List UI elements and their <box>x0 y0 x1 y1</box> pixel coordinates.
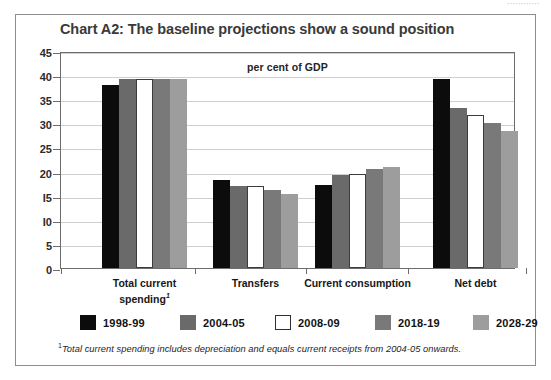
x-axis-category-label-line: spending1 <box>113 290 176 305</box>
bar <box>467 115 484 268</box>
y-axis-tick-label: 45 <box>40 47 52 59</box>
legend-swatch <box>275 315 291 330</box>
bar <box>119 79 136 269</box>
bar <box>450 108 467 268</box>
y-axis-tick-mark <box>53 53 60 54</box>
y-axis-tick-label: I5 <box>43 192 52 204</box>
bar <box>230 186 247 268</box>
y-axis-tick-label: 30 <box>40 119 52 131</box>
chart-figure-frame: Chart A2: The baseline projections show … <box>15 14 536 366</box>
y-axis-tick-mark <box>53 101 60 102</box>
chart-title: Chart A2: The baseline projections show … <box>60 21 530 37</box>
legend-item[interactable]: 2028-29 <box>473 315 538 330</box>
y-axis-tick-mark <box>53 246 60 247</box>
legend-label: 2018-19 <box>398 317 440 329</box>
x-axis-tick-mark <box>61 268 62 274</box>
bar <box>433 79 450 269</box>
legend: 1998-992004-052008-092018-192028-29 <box>60 315 520 335</box>
y-axis-tick-label: 0 <box>46 264 52 276</box>
y-axis-tick-label: 40 <box>40 71 52 83</box>
chart-footnote: 1Total current spending includes depreci… <box>58 342 528 354</box>
bar <box>102 85 119 268</box>
legend-item[interactable]: 1998-99 <box>80 315 145 330</box>
legend-label: 2008-09 <box>298 317 340 329</box>
legend-swatch <box>180 315 196 330</box>
footnote-text: Total current spending includes deprecia… <box>62 344 461 354</box>
bar <box>315 185 332 268</box>
y-axis-tick-mark <box>53 77 60 78</box>
x-axis-label-footnote-marker: 1 <box>166 292 170 299</box>
x-axis-category-label-line: Transfers <box>232 277 279 290</box>
bar <box>153 79 170 269</box>
bar-group <box>315 53 400 268</box>
bar <box>247 186 264 268</box>
y-axis-tick-mark <box>53 125 60 126</box>
x-axis-category-label: Transfers <box>232 277 279 290</box>
legend-label: 2028-29 <box>496 317 538 329</box>
legend-swatch <box>473 315 489 330</box>
x-axis-category-label: Total currentspending1 <box>113 277 176 305</box>
bar-group <box>213 53 298 268</box>
y-axis-tick-label: I0 <box>43 216 52 228</box>
bar <box>136 79 153 269</box>
x-axis-category-label-line: Current consumption <box>304 277 411 290</box>
bar <box>484 123 501 268</box>
x-axis-tick-mark <box>408 268 409 274</box>
bar <box>170 79 187 269</box>
scan-top-artifact: ············ <box>300 0 540 9</box>
y-axis-tick-mark <box>53 149 60 150</box>
y-axis-tick-mark <box>53 198 60 199</box>
x-axis-category-label: Net debt <box>455 277 497 290</box>
y-axis-tick-mark <box>53 270 60 271</box>
bar <box>332 175 349 268</box>
bar-group <box>433 53 518 268</box>
x-axis-category-label-line: Total current <box>113 277 176 290</box>
y-axis-tick-label: 5 <box>46 240 52 252</box>
x-axis-tick-mark <box>306 268 307 274</box>
bar-group <box>102 53 187 268</box>
bar <box>383 167 400 268</box>
legend-label: 1998-99 <box>103 317 145 329</box>
x-axis-category-label-line: Net debt <box>455 277 497 290</box>
bar <box>501 131 518 268</box>
y-axis-tick-mark <box>53 222 60 223</box>
legend-item[interactable]: 2008-09 <box>275 315 340 330</box>
x-axis-category-label: Current consumption <box>304 277 411 290</box>
x-axis-tick-mark <box>195 268 196 274</box>
bar <box>213 180 230 268</box>
legend-item[interactable]: 2004-05 <box>180 315 245 330</box>
legend-swatch <box>80 315 96 330</box>
y-axis-tick-mark <box>53 174 60 175</box>
legend-item[interactable]: 2018-19 <box>375 315 440 330</box>
y-axis-tick-label: 20 <box>40 168 52 180</box>
x-axis-tick-mark <box>526 268 527 274</box>
bar <box>281 194 298 268</box>
y-axis-tick-label: 25 <box>40 143 52 155</box>
legend-swatch <box>375 315 391 330</box>
legend-label: 2004-05 <box>203 317 245 329</box>
bar <box>264 190 281 268</box>
bar <box>349 174 366 269</box>
bar <box>366 169 383 268</box>
plot-area: per cent of GDP 05I0I5202530354045 Total… <box>60 52 515 269</box>
y-axis-tick-label: 35 <box>40 95 52 107</box>
